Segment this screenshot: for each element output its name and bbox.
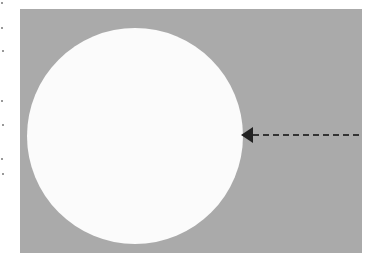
diagram-canvas: [0, 0, 365, 253]
arrow-overlay: [0, 0, 365, 253]
arrow-head-icon: [241, 127, 253, 143]
